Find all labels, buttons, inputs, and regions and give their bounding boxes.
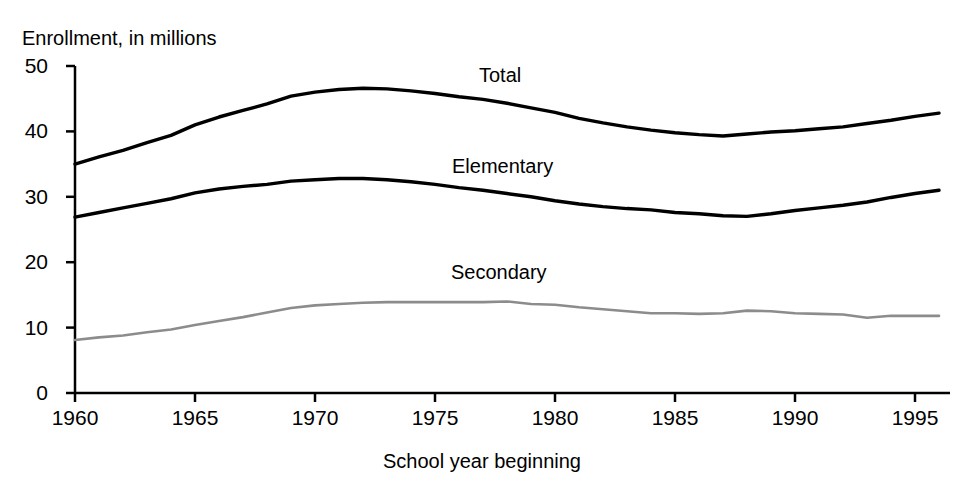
plot-area: [0, 0, 964, 497]
axes-group: [66, 66, 950, 402]
series-lines-group: [75, 88, 939, 340]
enrollment-line-chart: Enrollment, in millions 50 40 30 20 10 0…: [0, 0, 964, 497]
series-line-elementary: [75, 178, 939, 217]
series-line-total: [75, 88, 939, 164]
series-line-secondary: [75, 301, 939, 340]
